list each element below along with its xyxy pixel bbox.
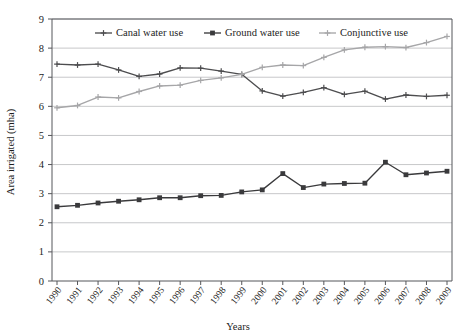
legend-swatch-marker (325, 30, 331, 36)
x-tick-label: 2005 (352, 285, 372, 306)
data-point (280, 93, 286, 99)
data-point (177, 65, 183, 71)
chart-legend: Canal water useGround water useConjuncti… (95, 27, 408, 38)
data-point (300, 63, 306, 69)
y-tick-label: 6 (39, 101, 44, 112)
data-point (383, 160, 388, 165)
x-tick-label: 1996 (167, 285, 187, 306)
x-tick-label: 1997 (188, 285, 208, 306)
data-point (95, 61, 101, 67)
data-point (403, 92, 409, 98)
data-point (55, 204, 60, 209)
gridlines (52, 19, 452, 252)
data-point (219, 193, 224, 198)
data-point (178, 195, 183, 200)
data-point (75, 203, 80, 208)
data-point (137, 197, 142, 202)
line-chart: 0123456789 19901991199219931994199519961… (0, 0, 468, 335)
data-point (136, 89, 142, 95)
series-ground-water-use (55, 160, 450, 209)
data-point (54, 61, 60, 67)
data-point (280, 171, 285, 176)
data-point (342, 181, 347, 186)
tick-marks (48, 19, 447, 285)
x-tick-label: 2000 (249, 285, 269, 306)
data-point (218, 68, 224, 74)
legend-item-canal-water-use[interactable]: Canal water use (95, 27, 183, 38)
series-line (57, 36, 447, 107)
series-line (57, 64, 447, 99)
y-tick-label: 4 (39, 159, 45, 170)
data-point (75, 62, 81, 68)
x-tick-label: 2008 (413, 285, 433, 306)
legend-label: Conjunctive use (340, 27, 408, 38)
data-point (444, 34, 450, 40)
data-point (239, 190, 244, 195)
x-tick-label: 2001 (270, 285, 290, 306)
data-point (157, 83, 163, 89)
legend-label: Ground water use (225, 27, 300, 38)
x-tick-label: 1995 (147, 285, 167, 306)
legend-swatch-marker (101, 30, 107, 36)
data-point (424, 40, 430, 46)
data-point (198, 78, 204, 84)
series-conjunctive-use (54, 34, 450, 111)
legend-swatch-marker (210, 31, 215, 36)
data-point (444, 92, 450, 98)
data-point (300, 89, 306, 95)
x-tick-label: 2004 (331, 285, 351, 306)
data-point (341, 91, 347, 97)
legend-item-conjunctive-use[interactable]: Conjunctive use (319, 27, 408, 38)
data-point (424, 94, 430, 100)
data-point (362, 88, 368, 94)
x-tick-label: 2007 (393, 285, 413, 306)
data-point (383, 96, 389, 102)
data-point (362, 44, 368, 50)
y-tick-label: 8 (39, 43, 44, 54)
data-point (157, 195, 162, 200)
data-point (321, 85, 327, 91)
y-tick-label: 1 (39, 246, 44, 257)
data-point (321, 55, 327, 61)
data-series (54, 34, 450, 210)
y-tick-label: 9 (39, 14, 44, 25)
data-point (321, 182, 326, 187)
data-point (260, 187, 265, 192)
x-tick-label: 2009 (434, 285, 454, 306)
y-tick-label: 0 (39, 276, 44, 287)
x-tick-label: 1991 (65, 285, 85, 306)
y-tick-label: 2 (39, 217, 44, 228)
y-tick-label: 7 (39, 72, 44, 83)
series-line (57, 162, 447, 207)
data-point (96, 201, 101, 206)
x-tick-label: 1998 (208, 285, 228, 306)
data-point (116, 67, 122, 73)
x-tick-label: 1994 (126, 285, 146, 306)
y-axis-tick-labels: 0123456789 (39, 14, 45, 287)
x-axis-title: Years (226, 321, 249, 332)
data-point (157, 71, 163, 77)
data-point (424, 171, 429, 176)
legend-item-ground-water-use[interactable]: Ground water use (204, 27, 300, 38)
y-tick-label: 5 (39, 130, 44, 141)
chart-canvas: 0123456789 19901991199219931994199519961… (0, 0, 468, 335)
data-point (54, 105, 60, 111)
data-point (404, 172, 409, 177)
data-point (198, 193, 203, 198)
data-point (362, 181, 367, 186)
x-tick-label: 2006 (372, 285, 392, 306)
data-point (75, 103, 81, 109)
x-tick-label: 2002 (290, 285, 310, 306)
data-point (445, 169, 450, 174)
data-point (198, 65, 204, 71)
data-point (403, 45, 409, 51)
x-tick-label: 1992 (85, 285, 105, 306)
axes (52, 19, 452, 281)
x-tick-label: 1999 (229, 285, 249, 306)
x-tick-label: 1993 (106, 285, 126, 306)
y-tick-label: 3 (39, 188, 44, 199)
data-point (218, 75, 224, 81)
data-point (259, 64, 265, 70)
data-point (116, 95, 122, 101)
data-point (383, 44, 389, 50)
